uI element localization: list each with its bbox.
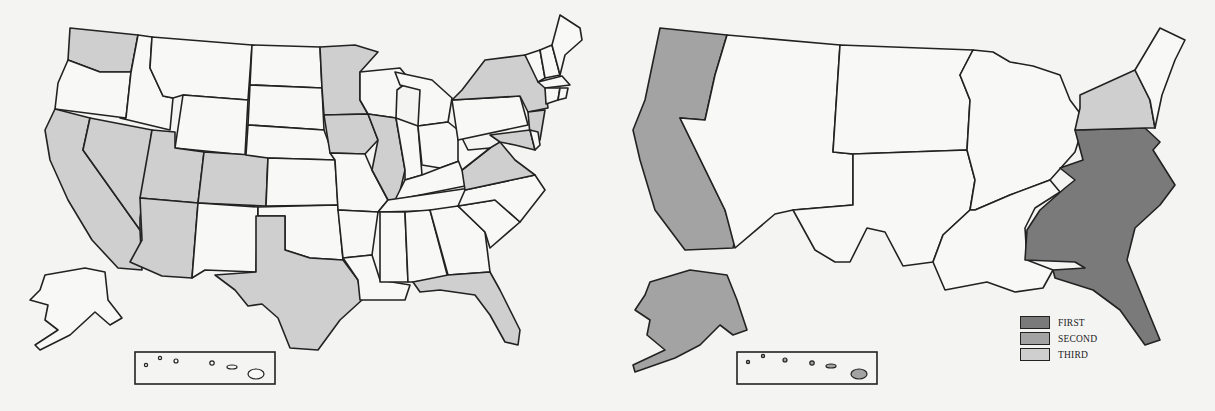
state-mt (150, 37, 252, 100)
legend-swatch-third (1020, 348, 1050, 361)
legend-label: FIRST (1058, 318, 1085, 328)
state-ri (558, 88, 568, 100)
legend-item-third: THIRD (1020, 347, 1097, 362)
island (761, 354, 764, 357)
island (144, 363, 147, 366)
right-us-map (615, 0, 1215, 411)
legend-label: SECOND (1058, 334, 1097, 344)
island (826, 364, 836, 368)
island-big (248, 369, 264, 379)
state-ar (338, 210, 378, 258)
region-alaska (633, 270, 747, 372)
island (227, 365, 237, 369)
state-ks (266, 158, 338, 206)
state-co (198, 152, 268, 206)
island (174, 359, 178, 363)
region-plains-north (833, 45, 973, 154)
state-wy (175, 95, 248, 155)
legend-item-first: FIRST (1020, 315, 1097, 330)
state-ne (246, 125, 335, 160)
state-mi (395, 72, 452, 126)
legend-item-second: SECOND (1020, 331, 1097, 346)
hawaii-islands (144, 356, 264, 379)
island-big (851, 369, 867, 379)
state-ak (30, 268, 122, 350)
island (810, 361, 814, 365)
state-oh (418, 122, 462, 168)
state-ct (545, 88, 560, 104)
state-ms (380, 212, 408, 282)
legend-swatch-first (1020, 316, 1050, 329)
state-nm (192, 203, 258, 278)
legend-label: THIRD (1058, 350, 1088, 360)
island (158, 356, 161, 359)
island (746, 360, 749, 363)
hawaii-islands (746, 354, 867, 379)
island (210, 361, 214, 365)
legend-swatch-second (1020, 332, 1050, 345)
map-legend: FIRST SECOND THIRD (1020, 315, 1097, 363)
island (783, 358, 787, 362)
state-sd (248, 85, 324, 130)
state-fl (413, 272, 520, 345)
left-us-map (0, 0, 600, 411)
state-nd (250, 45, 322, 88)
